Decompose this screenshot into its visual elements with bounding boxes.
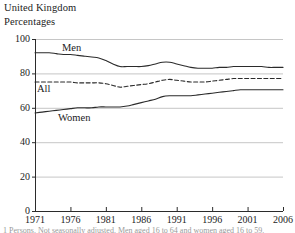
series-label-women: Women	[58, 112, 90, 123]
chart-footnote: 1 Persons. Not seasonally adjusted. Men …	[3, 226, 295, 233]
series-label-men: Men	[62, 42, 81, 53]
x-axis-tick-label: 1971	[15, 215, 55, 225]
x-axis-tick-label: 1996	[192, 215, 232, 225]
y-axis-tick-label: 80	[8, 68, 30, 78]
x-axis-tick-label: 2006	[263, 215, 295, 225]
x-axis-tick-label: 1986	[121, 215, 161, 225]
x-axis-tick-label: 1981	[86, 215, 126, 225]
y-axis-tick-label: 20	[8, 172, 30, 182]
chart-figure: United Kingdom Percentages 0204060801001…	[0, 0, 295, 233]
series-line-women	[35, 90, 283, 113]
line-chart-svg	[0, 0, 295, 233]
y-axis-tick-label: 100	[8, 34, 30, 44]
x-axis-tick-label: 1991	[157, 215, 197, 225]
series-line-all	[35, 78, 283, 87]
x-axis-tick-label: 2001	[228, 215, 268, 225]
series-label-all: All	[37, 83, 50, 94]
y-axis-tick-label: 60	[8, 103, 30, 113]
series-line-men	[35, 53, 283, 69]
y-axis-tick-label: 40	[8, 137, 30, 147]
x-axis-tick-label: 1976	[50, 215, 90, 225]
plot-area: 0204060801001971197619811986199119962001…	[0, 0, 295, 233]
